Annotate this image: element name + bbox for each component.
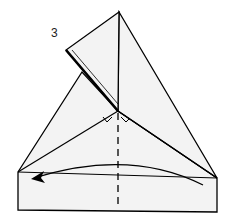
origami-diagram — [0, 0, 230, 222]
